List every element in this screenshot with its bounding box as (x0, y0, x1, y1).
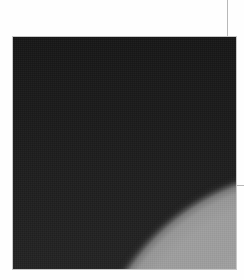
vertical-divider-line (227, 0, 228, 38)
planet-limb-photo: Grayscale photograph showing the curved … (12, 36, 237, 270)
page-canvas: Grayscale photograph showing the curved … (0, 0, 244, 280)
horizontal-tick-line (236, 185, 244, 186)
